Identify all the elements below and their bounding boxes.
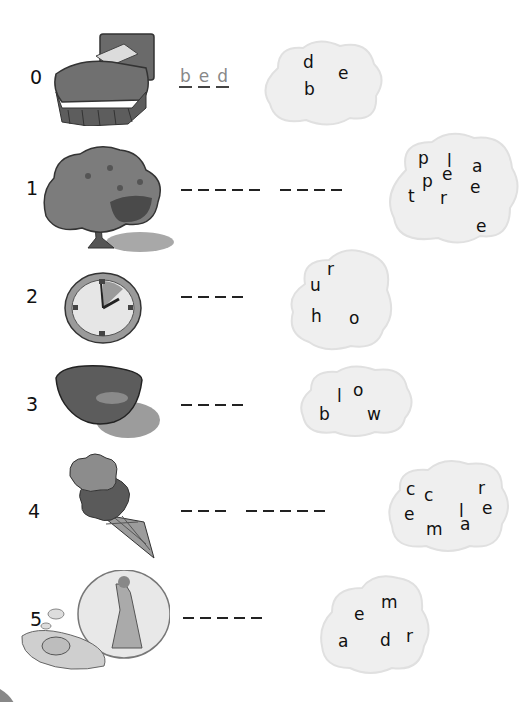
cloud-letter: e (354, 606, 364, 623)
cloud-letter: p (418, 150, 429, 167)
cloud-letter: u (310, 277, 321, 294)
cloud-letter: e (470, 179, 480, 196)
letter-cloud: lobw (297, 364, 415, 438)
dream-picture (20, 570, 170, 674)
answer-letter: d (216, 68, 229, 88)
letter-cloud: deb (258, 38, 388, 128)
letter-cloud: plapeetre (384, 128, 524, 246)
clock-picture (63, 271, 143, 349)
cloud-letter: r (478, 480, 485, 497)
cloud-letter: e (482, 500, 492, 517)
cloud-letter: c (424, 487, 433, 504)
example-answer: b e d (179, 68, 229, 88)
cloud-letter: o (353, 382, 363, 399)
cloud-letter: c (406, 481, 415, 498)
answer-letter: b (179, 68, 192, 88)
item-number: 4 (28, 500, 40, 522)
cloud-letter: h (311, 308, 322, 325)
item-number: 0 (30, 66, 42, 88)
cloud-letter: p (422, 173, 433, 190)
apple-tree-picture (40, 142, 176, 262)
answer-letter: e (198, 68, 210, 88)
ice-cream-picture (66, 452, 158, 566)
answer-blanks[interactable] (181, 404, 249, 406)
item-number: 1 (26, 177, 38, 199)
cloud-letter: a (472, 158, 482, 175)
answer-blanks[interactable] (181, 189, 348, 191)
cloud-letter: w (367, 406, 381, 423)
cloud-letter: o (349, 310, 359, 327)
letter-cloud: ccrleema (384, 456, 512, 554)
cloud-letter: r (440, 190, 447, 207)
cloud-letter: l (337, 388, 342, 405)
answer-blanks[interactable] (181, 510, 331, 512)
cloud-letter: r (406, 628, 413, 645)
bowl-picture (52, 364, 162, 444)
cloud-letter: d (380, 632, 391, 649)
answer-blanks[interactable] (181, 296, 249, 298)
cloud-letter: e (404, 506, 414, 523)
cloud-letter: t (408, 188, 415, 205)
cloud-letter: a (338, 633, 348, 650)
cloud-letter: r (327, 261, 334, 278)
cloud-letter: e (338, 65, 348, 82)
cloud-letter: d (303, 54, 314, 71)
cloud-letter: b (319, 406, 330, 423)
letter-cloud: meadr (318, 572, 434, 676)
cloud-letter: m (381, 594, 398, 611)
item-number: 2 (26, 285, 38, 307)
item-number: 3 (26, 393, 38, 415)
bed-picture (48, 30, 158, 130)
cloud-letter: e (442, 166, 452, 183)
cloud-letter: a (460, 516, 470, 533)
cloud-letter: b (304, 81, 315, 98)
answer-blanks[interactable] (183, 617, 268, 619)
cloud-letter: m (426, 521, 443, 538)
page-edge-decoration (0, 688, 14, 702)
letter-cloud: ruho (285, 244, 397, 352)
cloud-letter: e (476, 218, 486, 235)
